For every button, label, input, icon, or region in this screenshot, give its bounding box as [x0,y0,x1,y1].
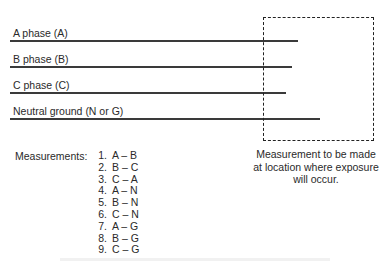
phase-b-line [10,66,292,68]
list-item: 9.C – G [92,244,139,256]
phase-b-label: B phase (B) [13,53,68,65]
measurement-location-box [263,17,374,141]
phase-c-line [10,92,286,94]
measurements-title: Measurements: [15,150,87,162]
measurement-box-caption: Measurement to be made at location where… [236,148,391,186]
measurements-list: 1.A – B 2.B – C 3.C – A 4.A – N 5.B – N … [92,150,139,256]
faint-caption-artifact [60,258,330,261]
phase-a-label: A phase (A) [13,27,68,39]
phase-a-line [10,40,298,42]
neutral-ground-label: Neutral ground (N or G) [13,105,123,117]
phase-c-label: C phase (C) [13,79,70,91]
